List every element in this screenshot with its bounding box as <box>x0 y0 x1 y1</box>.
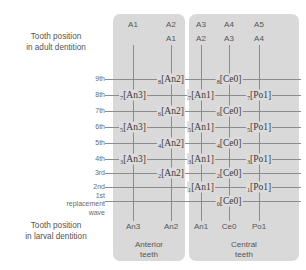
tooth-position-token: 5[An1] <box>187 122 215 133</box>
larval-column-label: An3 <box>118 222 148 231</box>
row-line <box>105 201 301 202</box>
larval-column-label: An1 <box>186 222 216 231</box>
tooth-position-token: 3[Po1] <box>246 154 272 165</box>
larval-column-label: Ce0 <box>214 222 244 231</box>
tooth-position-token: 6[An2] <box>157 106 185 117</box>
wave-label: 9th <box>59 75 105 83</box>
adult-column-header: A4 <box>244 34 274 43</box>
tooth-position-token: 4[Ce0] <box>216 138 243 149</box>
tooth-position-token: 3[An3] <box>119 154 147 165</box>
adult-column-header: A5 <box>244 20 274 29</box>
adult-column-header: A2 <box>156 20 186 29</box>
adult-column-header: A4 <box>214 20 244 29</box>
wave-label: 1streplacement wave <box>59 192 105 217</box>
replacement-wave-labels: 9th8th7th6th5th4th3rd2nd1streplacement w… <box>55 0 105 270</box>
adult-column-header: A3 <box>186 20 216 29</box>
tooth-position-token: 0[Ce0] <box>216 196 243 207</box>
tooth-position-token: 4[An2] <box>157 138 185 149</box>
wave-label: 4th <box>59 155 105 163</box>
larval-column-label: An2 <box>156 222 186 231</box>
tooth-position-token: 1[An1] <box>187 182 215 193</box>
tooth-replacement-diagram: Tooth positionin adult dentition Tooth p… <box>0 0 306 270</box>
adult-column-header: A3 <box>214 34 244 43</box>
column-line <box>259 45 260 221</box>
row-line <box>105 173 301 174</box>
wave-label: 2nd <box>59 183 105 191</box>
tooth-position-token: 5[Po1] <box>246 122 272 133</box>
tooth-position-token: 5[An3] <box>119 122 147 133</box>
tooth-position-token: 6[Ce0] <box>216 106 243 117</box>
wave-label: 7th <box>59 107 105 115</box>
column-line <box>201 45 202 221</box>
column-line <box>133 45 134 221</box>
tooth-position-token: 7[An1] <box>187 90 215 101</box>
tooth-position-token: 2[An2] <box>157 168 185 179</box>
adult-column-header: A1 <box>156 34 186 43</box>
adult-column-header: A2 <box>186 34 216 43</box>
row-line <box>105 111 301 112</box>
group-label-anterior-teeth: Anteriorteeth <box>113 240 185 259</box>
tooth-position-token: 8[Ce0] <box>216 74 243 85</box>
row-line <box>105 79 301 80</box>
column-line <box>171 45 172 221</box>
wave-label: 8th <box>59 91 105 99</box>
tooth-position-token: 7[Po1] <box>246 90 272 101</box>
tooth-position-token: 8[An2] <box>157 74 185 85</box>
tooth-position-token: 3[An1] <box>187 154 215 165</box>
wave-label: 3rd <box>59 169 105 177</box>
larval-column-label: Po1 <box>244 222 274 231</box>
wave-label: 5th <box>59 139 105 147</box>
group-label-central-teeth: Centralteeth <box>189 240 299 259</box>
row-line <box>105 143 301 144</box>
adult-column-header: A1 <box>118 20 148 29</box>
tooth-position-token: 2[Ce0] <box>216 168 243 179</box>
wave-label: 6th <box>59 123 105 131</box>
tooth-position-token: 7[An3] <box>119 90 147 101</box>
tooth-position-token: 1[Po1] <box>246 182 272 193</box>
